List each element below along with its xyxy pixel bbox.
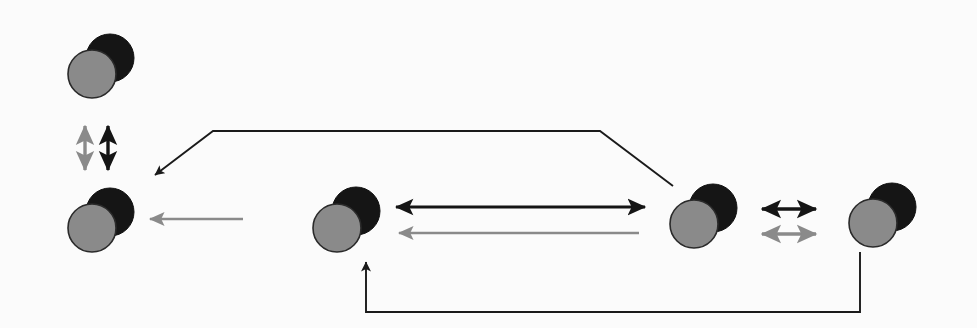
diagram-canvas bbox=[0, 0, 977, 328]
gray-circle bbox=[313, 204, 361, 252]
diagram-svg bbox=[0, 0, 977, 328]
dumbbell-pair-center-right[interactable] bbox=[670, 184, 737, 248]
dumbbell-pair-top-left[interactable] bbox=[68, 34, 134, 98]
gray-circle bbox=[68, 50, 116, 98]
gray-circle bbox=[849, 199, 897, 247]
gray-circle bbox=[670, 200, 718, 248]
dumbbell-pair-center-left[interactable] bbox=[313, 187, 380, 252]
gray-circle bbox=[68, 204, 116, 252]
dumbbell-pair-left[interactable] bbox=[68, 188, 134, 252]
dumbbell-pair-right[interactable] bbox=[849, 183, 916, 247]
bottom-polyline-arrow[interactable] bbox=[366, 252, 860, 312]
connector-layer bbox=[85, 126, 860, 312]
top-polyline-arrow[interactable] bbox=[155, 131, 673, 186]
